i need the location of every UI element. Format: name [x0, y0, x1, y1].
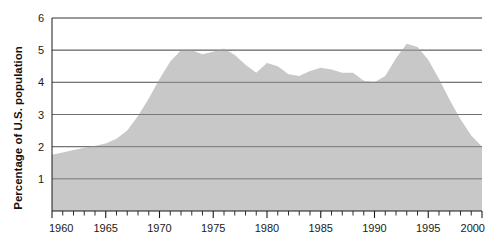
x-tick-label-1980: 1980 — [255, 222, 279, 234]
x-axis-tick-labels: 196019651970197519801985199019952000 — [49, 222, 485, 234]
y-tick-label-3: 3 — [38, 109, 44, 121]
area-chart: 196019651970197519801985199019952000 123… — [0, 0, 498, 247]
chart-container: 196019651970197519801985199019952000 123… — [0, 0, 498, 247]
x-tick-label-1995: 1995 — [416, 222, 440, 234]
y-tick-label-1: 1 — [38, 173, 44, 185]
x-tick-label-1965: 1965 — [94, 222, 118, 234]
y-axis-title: Percentage of U.S. population — [12, 46, 24, 210]
y-tick-label-5: 5 — [38, 44, 44, 56]
x-tick-label-1990: 1990 — [362, 222, 386, 234]
x-tick-label-1960: 1960 — [49, 222, 73, 234]
y-tick-label-2: 2 — [38, 141, 44, 153]
y-tick-label-4: 4 — [38, 76, 44, 88]
y-tick-label-6: 6 — [38, 12, 44, 24]
x-tick-label-1970: 1970 — [147, 222, 171, 234]
x-tick-label-1985: 1985 — [309, 222, 333, 234]
x-tick-label-1975: 1975 — [201, 222, 225, 234]
x-tick-label-2000: 2000 — [461, 222, 485, 234]
